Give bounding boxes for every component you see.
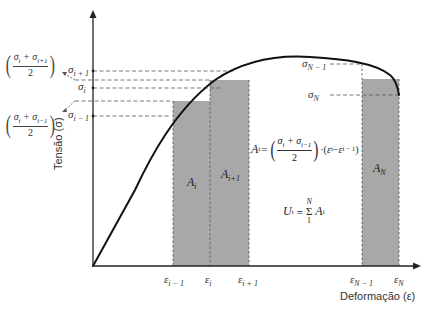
energy-formula: Ut = N Σ 1 Ai xyxy=(283,198,325,225)
y-tick-sigma-i-plus-1: σi + 1 xyxy=(68,64,89,78)
area-label-a-n: AN xyxy=(373,161,386,177)
midpoint-label-upper: ( σi + σi+1 2 ) xyxy=(4,52,57,78)
x-axis-title: Deformação (ε) xyxy=(340,290,415,302)
x-tick-eps-n: εN xyxy=(394,274,404,288)
y-tick-sigma-i: σi xyxy=(78,81,86,95)
area-formula: Ai = ( σi + σi−1 2 ) · (εi − εi − 1) xyxy=(251,135,359,163)
y-tick-sigma-n-minus-1: σN − 1 xyxy=(302,58,326,72)
x-tick-eps-n-minus-1: εN − 1 xyxy=(350,274,373,288)
midpoint-label-lower: ( σi + σi−1 2 ) xyxy=(4,112,57,138)
stress-strain-diagram xyxy=(0,0,435,309)
area-label-a-i: Ai xyxy=(187,175,197,191)
x-axis-arrow-icon xyxy=(413,263,421,270)
y-axis-title: Tensão (σ) xyxy=(52,117,64,170)
y-tick-sigma-i-minus-1: σi − 1 xyxy=(68,109,89,123)
x-tick-eps-i-plus-1: εi + 1 xyxy=(238,274,258,288)
x-tick-eps-i-minus-1: εi − 1 xyxy=(164,274,184,288)
area-label-a-i-plus-1: Ai+1 xyxy=(221,167,240,183)
x-tick-eps-i: εi xyxy=(205,274,212,288)
y-tick-sigma-n: σN xyxy=(308,89,319,103)
y-axis-arrow-icon xyxy=(90,10,97,18)
